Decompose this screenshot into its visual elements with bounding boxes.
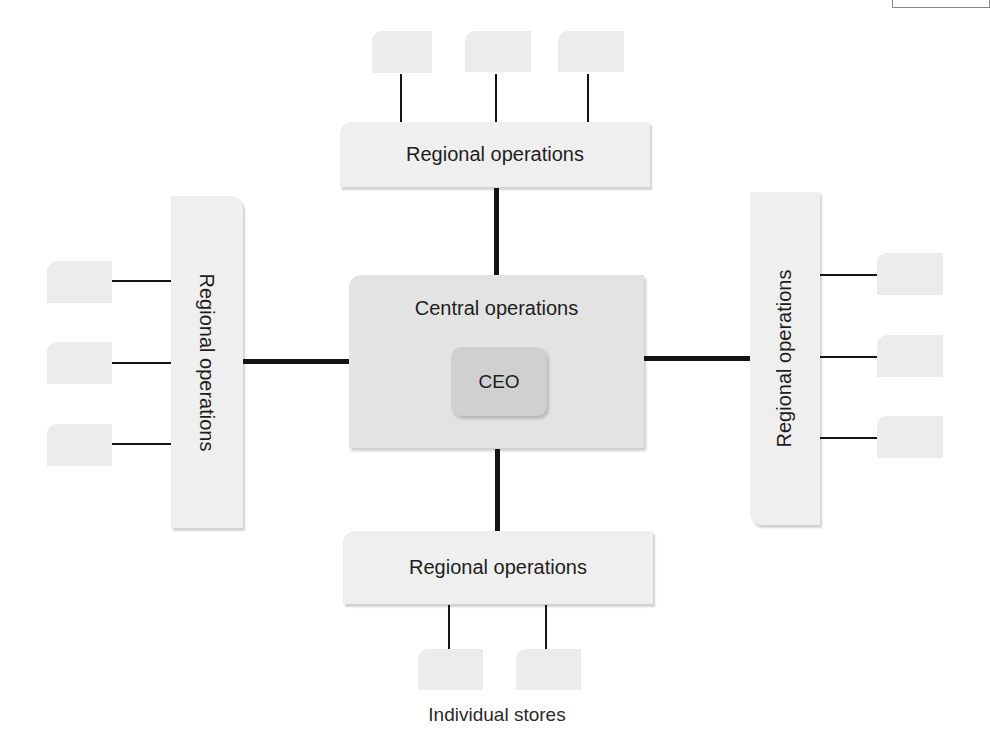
connector-top-store-2 bbox=[495, 74, 497, 122]
connector-right-store-3 bbox=[820, 437, 877, 439]
ceo-label: CEO bbox=[478, 371, 519, 393]
store-box-right-3 bbox=[877, 416, 943, 458]
connector-right-store-1 bbox=[820, 274, 877, 276]
region-label-left: Regional operations bbox=[196, 273, 219, 451]
store-box-right-1 bbox=[877, 253, 943, 295]
connector-bottom-store-2 bbox=[545, 605, 547, 649]
store-box-bottom-2 bbox=[516, 649, 581, 690]
store-box-left-3 bbox=[47, 424, 112, 466]
store-box-bottom-1 bbox=[418, 649, 483, 690]
connector-left-store-2 bbox=[112, 362, 171, 364]
individual-stores-caption: Individual stores bbox=[397, 704, 597, 726]
region-box-left: Regional operations bbox=[171, 196, 243, 528]
store-box-left-1 bbox=[47, 261, 112, 303]
connector-left-store-3 bbox=[112, 443, 171, 445]
region-label-bottom: Regional operations bbox=[409, 556, 587, 579]
connector-top-store-1 bbox=[400, 74, 402, 122]
store-box-left-2 bbox=[47, 342, 112, 384]
store-box-top-3 bbox=[558, 31, 624, 72]
connector-bottom-central bbox=[495, 449, 500, 531]
region-label-right: Regional operations bbox=[774, 270, 797, 448]
partial-frame-corner bbox=[892, 0, 990, 8]
connector-top-central bbox=[494, 188, 499, 275]
ceo-box: CEO bbox=[451, 347, 547, 416]
region-box-bottom: Regional operations bbox=[343, 531, 653, 604]
store-box-top-1 bbox=[372, 31, 432, 73]
region-box-top: Regional operations bbox=[340, 122, 650, 187]
store-box-top-2 bbox=[465, 31, 531, 72]
connector-left-store-1 bbox=[112, 280, 171, 282]
connector-bottom-store-1 bbox=[448, 605, 450, 649]
region-label-top: Regional operations bbox=[406, 143, 584, 166]
central-operations-title: Central operations bbox=[349, 297, 644, 320]
central-operations-box: Central operations CEO bbox=[349, 275, 644, 448]
connector-right-central bbox=[644, 356, 750, 361]
connector-top-store-3 bbox=[587, 74, 589, 122]
connector-right-store-2 bbox=[820, 356, 877, 358]
region-box-right: Regional operations bbox=[750, 192, 820, 525]
store-box-right-2 bbox=[877, 335, 943, 377]
connector-left-central bbox=[243, 359, 349, 364]
